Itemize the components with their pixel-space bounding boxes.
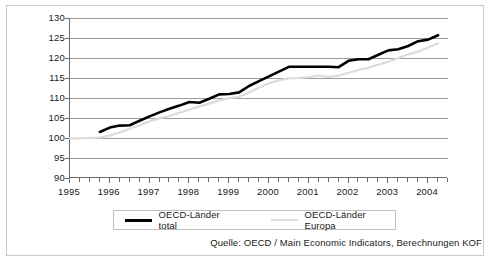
- x-axis-tick-minor: [318, 178, 319, 182]
- source-note: Quelle: OECD / Main Economic Indicators,…: [0, 237, 482, 249]
- y-axis-tick-label: 115: [35, 73, 65, 83]
- x-axis-tick-label: 1997: [129, 186, 169, 197]
- x-axis-tick-major: [109, 178, 110, 183]
- x-axis-tick-label: 1998: [168, 186, 208, 197]
- x-axis-ticks: [69, 178, 448, 184]
- y-axis-tick-label: 125: [35, 33, 65, 43]
- x-axis-tick-label: 2002: [328, 186, 368, 197]
- x-axis-tick-minor: [218, 178, 219, 182]
- x-axis-tick-major: [427, 178, 428, 183]
- x-axis-tick-major: [348, 178, 349, 183]
- x-axis-tick-minor: [367, 178, 368, 182]
- y-axis-tick-label: 105: [35, 113, 65, 123]
- x-axis-tick-minor: [258, 178, 259, 182]
- x-axis-tick-minor: [278, 178, 279, 182]
- x-axis-tick-minor: [208, 178, 209, 182]
- x-axis-tick-major: [387, 178, 388, 183]
- x-axis-tick-major: [308, 178, 309, 183]
- x-axis-tick-major: [268, 178, 269, 183]
- legend-item-oecd-laender-total: OECD-Länder total: [125, 209, 237, 231]
- x-axis-tick-minor: [248, 178, 249, 182]
- x-axis-tick-major: [149, 178, 150, 183]
- x-axis-tick-label: 1996: [89, 186, 129, 197]
- plot-area: [69, 18, 447, 178]
- x-axis-tick-minor: [198, 178, 199, 182]
- x-axis-tick-minor: [129, 178, 130, 182]
- x-axis-tick-minor: [159, 178, 160, 182]
- x-axis-tick-minor: [99, 178, 100, 182]
- legend-label-total: OECD-Länder total: [159, 209, 237, 231]
- y-axis-tick-label: 110: [35, 93, 65, 103]
- x-axis-tick-minor: [357, 178, 358, 182]
- x-axis-tick-label: 2000: [248, 186, 288, 197]
- x-axis-tick-minor: [139, 178, 140, 182]
- x-axis-tick-label: 2003: [367, 186, 407, 197]
- y-axis-labels: 9095100105110115120125130: [33, 18, 65, 178]
- x-axis-tick-major: [228, 178, 229, 183]
- x-axis-tick-minor: [328, 178, 329, 182]
- x-axis-labels: 1995199619971998199920002001200220032004: [69, 186, 448, 200]
- series-layer: [70, 18, 448, 178]
- x-axis-tick-minor: [417, 178, 418, 182]
- x-axis-tick-minor: [79, 178, 80, 182]
- x-axis-tick-minor: [407, 178, 408, 182]
- x-axis-tick-label: 2001: [288, 186, 328, 197]
- chart-figure: 9095100105110115120125130 19951996199719…: [0, 0, 491, 261]
- y-axis-tick-label: 95: [35, 153, 65, 163]
- x-axis-tick-minor: [437, 178, 438, 182]
- y-axis-tick-label: 90: [35, 173, 65, 183]
- x-axis-tick-minor: [338, 178, 339, 182]
- x-axis-tick-minor: [119, 178, 120, 182]
- y-axis-tick-label: 100: [35, 133, 65, 143]
- x-axis-tick-minor: [298, 178, 299, 182]
- x-axis-tick-minor: [89, 178, 90, 182]
- y-axis-tick-label: 130: [35, 13, 65, 23]
- legend-item-oecd-laender-europa: OECD-Länder Europa: [271, 209, 395, 231]
- x-axis-tick-minor: [447, 178, 448, 182]
- x-axis-tick-label: 1999: [208, 186, 248, 197]
- x-axis-tick-minor: [288, 178, 289, 182]
- x-axis-tick-minor: [397, 178, 398, 182]
- x-axis-tick-label: 2004: [407, 186, 447, 197]
- x-axis-tick-minor: [178, 178, 179, 182]
- legend-swatch-line-icon: [125, 219, 152, 222]
- x-axis-tick-major: [69, 178, 70, 183]
- chart-legend: OECD-Länder total OECD-Länder Europa: [113, 210, 396, 230]
- legend-swatch-line-icon: [271, 219, 298, 221]
- x-axis-tick-minor: [377, 178, 378, 182]
- legend-label-europa: OECD-Länder Europa: [305, 209, 395, 231]
- x-axis-tick-label: 1995: [49, 186, 89, 197]
- x-axis-tick-minor: [238, 178, 239, 182]
- x-axis-tick-minor: [168, 178, 169, 182]
- x-axis-tick-major: [188, 178, 189, 183]
- y-axis-tick-label: 120: [35, 53, 65, 63]
